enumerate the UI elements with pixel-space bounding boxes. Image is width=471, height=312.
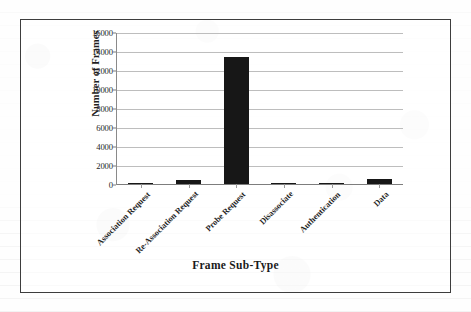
y-axis-tick-labels: 0200040006000800010000120001400016000 [77, 33, 113, 185]
chart-figure-frame: Number of Frames 02000400060008000100001… [20, 19, 451, 293]
y-axis-tick-label: 14000 [92, 47, 113, 57]
x-axis-category-label: Data [372, 190, 391, 209]
y-axis-tick-label: 2000 [96, 161, 113, 171]
x-axis-category-label: Disassociate [258, 190, 295, 227]
bar-slot [117, 33, 165, 184]
y-axis-tick-label: 6000 [96, 123, 113, 133]
x-axis-baseline [117, 184, 403, 185]
y-axis-tick-label: 10000 [92, 85, 113, 95]
bar-slot [355, 33, 403, 184]
bar-slot [212, 33, 260, 184]
x-axis-category-label: Probe Request [204, 190, 247, 233]
y-axis-tick-label: 8000 [96, 104, 113, 114]
chart-plot-wrapper: Number of Frames 02000400060008000100001… [21, 20, 450, 292]
bar-slot [165, 33, 213, 184]
bar-series-group [117, 33, 403, 184]
y-axis-tick-label: 12000 [92, 66, 113, 76]
y-axis-tick-label: 16000 [92, 28, 113, 38]
x-axis-title: Frame Sub-Type [21, 259, 450, 271]
x-axis-category-label: Authentication [298, 190, 342, 234]
bar [224, 57, 249, 184]
bar-slot [260, 33, 308, 184]
bar-slot [308, 33, 356, 184]
plot-area [116, 33, 403, 185]
y-axis-tick-label: 4000 [96, 142, 113, 152]
